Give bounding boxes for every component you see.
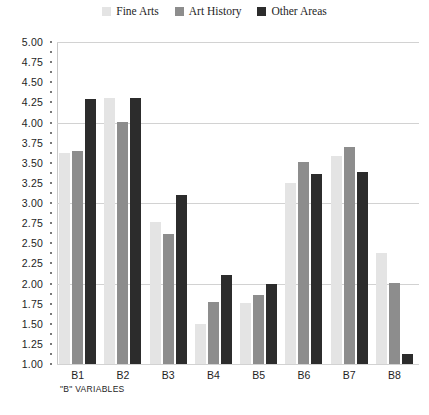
y-axis-tick-mark	[50, 122, 52, 124]
legend-swatch-art-history	[175, 7, 184, 16]
y-axis-tick-mark	[50, 142, 52, 144]
y-axis-tick-mark	[50, 81, 52, 83]
y-axis-tick-mark	[50, 303, 52, 305]
bar-chart: Fine Arts Art History Other Areas 5.004.…	[0, 0, 429, 415]
y-axis-tick-label: 5.00	[22, 37, 43, 48]
bar-group-b6	[285, 42, 322, 364]
y-axis-minor-tick-mark	[50, 353, 52, 355]
y-axis-minor-tick-mark	[50, 51, 52, 53]
bar-group-b1	[59, 42, 96, 364]
bar-b7-fine-arts	[331, 156, 342, 364]
bar-group-b4	[195, 42, 232, 364]
legend-item-fine-arts: Fine Arts	[102, 5, 159, 17]
x-axis-tick-label-b5: B5	[252, 370, 265, 381]
y-axis-minor-tick-mark	[50, 71, 52, 73]
y-axis-tick-mark	[50, 222, 52, 224]
y-axis-minor-tick-mark	[50, 111, 52, 113]
y-axis-tick-label: 4.00	[22, 117, 43, 128]
y-axis-tick-mark	[50, 202, 52, 204]
bar-b1-other-areas	[85, 99, 96, 364]
y-axis-tick-label: 4.75	[22, 57, 43, 68]
bar-b2-fine-arts	[104, 98, 115, 364]
y-axis-tick-label: 2.75	[22, 218, 43, 229]
y-axis-tick-label: 2.50	[22, 238, 43, 249]
y-axis-tick-label: 2.00	[22, 278, 43, 289]
legend-label-fine-arts: Fine Arts	[116, 5, 159, 17]
y-axis-tick-mark	[50, 262, 52, 264]
y-axis-tick-label: 3.25	[22, 177, 43, 188]
x-axis-tick-label-b1: B1	[71, 370, 84, 381]
legend-label-art-history: Art History	[189, 5, 242, 17]
y-axis-tick-mark	[50, 61, 52, 63]
x-axis-tick-label-b2: B2	[116, 370, 129, 381]
bar-b3-other-areas	[176, 195, 187, 364]
y-axis-tick-mark	[50, 101, 52, 103]
y-axis-tick-mark	[50, 182, 52, 184]
bar-b1-art-history	[72, 151, 83, 364]
y-axis-minor-tick-mark	[50, 232, 52, 234]
y-axis-minor-tick-mark	[50, 333, 52, 335]
x-axis-tick-label-b8: B8	[388, 370, 401, 381]
bar-b7-art-history	[344, 147, 355, 364]
bar-b1-fine-arts	[59, 153, 70, 364]
y-axis-tick-label: 1.50	[22, 318, 43, 329]
y-axis-tick-label: 1.25	[22, 338, 43, 349]
bar-b3-art-history	[163, 234, 174, 364]
y-axis-minor-tick-mark	[50, 212, 52, 214]
bar-group-b3	[150, 42, 187, 364]
plot-area	[57, 42, 419, 364]
x-axis-title: "B" VARIABLES	[60, 384, 125, 394]
x-axis: B1B2B3B4B5B6B7B8	[57, 364, 419, 384]
y-axis-minor-tick-mark	[50, 192, 52, 194]
y-axis-tick-label: 3.75	[22, 137, 43, 148]
bar-group-b5	[240, 42, 277, 364]
y-axis-minor-tick-mark	[50, 272, 52, 274]
y-axis-minor-tick-mark	[50, 132, 52, 134]
x-axis-tick-label-b6: B6	[297, 370, 310, 381]
bar-b5-other-areas	[266, 284, 277, 365]
y-axis-tick-mark	[50, 363, 52, 365]
bar-b8-other-areas	[402, 354, 413, 364]
y-axis-tick-label: 4.50	[22, 77, 43, 88]
y-axis-tick-label: 2.25	[22, 258, 43, 269]
bar-b2-art-history	[117, 122, 128, 364]
bar-b5-art-history	[253, 295, 264, 364]
bar-b4-fine-arts	[195, 324, 206, 364]
bar-b6-art-history	[298, 162, 309, 364]
y-axis-tick-mark	[50, 323, 52, 325]
y-axis-minor-tick-mark	[50, 293, 52, 295]
bar-b8-art-history	[389, 283, 400, 364]
bar-group-b8	[376, 42, 413, 364]
bar-group-b2	[104, 42, 141, 364]
y-axis-minor-tick-mark	[50, 91, 52, 93]
bar-b8-fine-arts	[376, 253, 387, 364]
y-axis-minor-tick-mark	[50, 313, 52, 315]
y-axis-tick-mark	[50, 162, 52, 164]
y-axis-minor-tick-mark	[50, 252, 52, 254]
legend-item-art-history: Art History	[175, 5, 242, 17]
y-axis-tick-label: 4.25	[22, 97, 43, 108]
bar-b4-art-history	[208, 302, 219, 364]
y-axis-tick-label: 3.50	[22, 157, 43, 168]
y-axis-tick-label: 1.00	[22, 359, 43, 370]
legend-swatch-other-areas	[257, 7, 266, 16]
x-axis-tick-label-b3: B3	[162, 370, 175, 381]
y-axis: 5.004.754.504.254.003.753.503.253.002.75…	[0, 0, 57, 415]
y-axis-tick-mark	[50, 41, 52, 43]
y-axis-tick-label: 3.00	[22, 198, 43, 209]
y-axis-tick-mark	[50, 343, 52, 345]
y-axis-minor-tick-mark	[50, 172, 52, 174]
legend-item-other-areas: Other Areas	[257, 5, 326, 17]
bar-b3-fine-arts	[150, 222, 161, 364]
y-axis-minor-tick-mark	[50, 152, 52, 154]
bar-b5-fine-arts	[240, 303, 251, 364]
bar-group-b7	[331, 42, 368, 364]
bar-b4-other-areas	[221, 275, 232, 364]
bar-b6-fine-arts	[285, 183, 296, 364]
bar-b6-other-areas	[311, 174, 322, 364]
legend-swatch-fine-arts	[102, 7, 111, 16]
chart-legend: Fine Arts Art History Other Areas	[0, 0, 429, 22]
legend-label-other-areas: Other Areas	[271, 5, 326, 17]
y-axis-tick-mark	[50, 283, 52, 285]
bar-b2-other-areas	[130, 98, 141, 364]
